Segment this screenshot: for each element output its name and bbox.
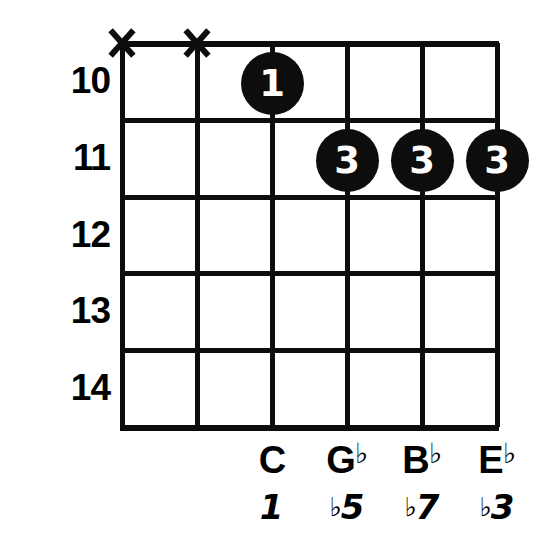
finger-dot-string3-fret10: 1 [241,52,304,115]
fret-line-nut [120,41,499,47]
fret-line-3 [120,271,499,276]
interval-number-string5: 7 [416,487,440,527]
fret-number-column: 10 11 12 13 14 [0,0,110,549]
fret-number-14: 14 [20,369,110,406]
fret-line-1 [120,118,499,123]
fret-number-11: 11 [20,139,110,176]
fret-number-13: 13 [20,292,110,329]
string-line-4 [345,43,350,427]
note-accidental-string6: ♭ [503,438,516,469]
fret-line-5 [120,425,499,431]
string-line-6 [495,43,500,427]
string-line-1 [120,43,125,427]
muted-string-marker-1-x-icon [105,26,139,60]
fretboard-grid [122,43,497,427]
fret-number-10: 10 [20,62,110,99]
finger-dot-string6-fret11: 3 [466,129,529,192]
interval-number-string3: 1 [260,487,284,527]
interval-number-string4: 5 [341,487,365,527]
interval-label-string6: ♭3 [437,490,549,524]
fret-line-4 [120,348,499,353]
note-letter-string4: G [326,439,356,481]
finger-dot-string5-fret11: 3 [391,129,454,192]
interval-number-string6: 3 [491,487,515,527]
note-letter-string6: E [478,439,503,481]
string-line-5 [420,43,425,427]
fret-number-12: 12 [20,216,110,253]
string-line-2 [195,43,200,427]
finger-dot-string4-fret11: 3 [316,129,379,192]
note-letter-string5: B [402,439,429,481]
muted-string-marker-2-x-icon [180,26,214,60]
note-letter-string3: C [259,439,286,481]
note-label-string6: E♭ [437,440,549,479]
chord-diagram: 10 11 12 13 14 1 3 3 3 C G♭ B♭ [0,0,549,549]
fret-line-2 [120,195,499,200]
